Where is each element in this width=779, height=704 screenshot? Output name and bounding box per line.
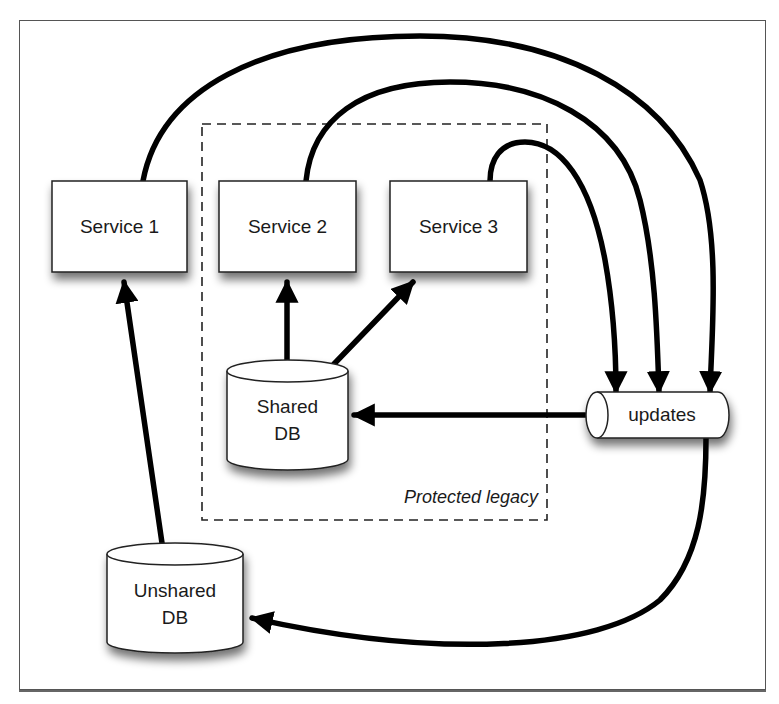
service1-label: Service 1 [80, 216, 159, 237]
unshared-db-label-line1: Unshared [134, 580, 216, 601]
architecture-diagram: Protected legacy Service 1 Service 2 Ser… [0, 0, 779, 704]
updates-label: updates [628, 404, 696, 425]
shared-db-label-line2: DB [274, 423, 300, 444]
unshared-db-label-line2: DB [162, 607, 188, 628]
shared-db-label-line1: Shared [257, 396, 318, 417]
service3-label: Service 3 [419, 216, 498, 237]
service2-label: Service 2 [248, 216, 327, 237]
protected-legacy-label: Protected legacy [404, 487, 539, 507]
